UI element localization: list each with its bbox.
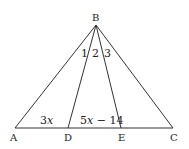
point-label-c: C xyxy=(170,132,178,143)
point-label-a: A xyxy=(9,132,18,143)
point-label-d: D xyxy=(64,132,72,143)
segment-bc xyxy=(96,25,173,128)
segment-bd xyxy=(68,25,96,128)
triangle-diagram: B A D E C 1 2 3 3x 5x − 14 xyxy=(0,0,189,149)
angle-label-2: 2 xyxy=(92,47,99,60)
segment-label-de: 5x − 14 xyxy=(80,114,123,127)
segment-label-ad: 3x xyxy=(40,114,54,127)
segment-ba xyxy=(15,25,96,128)
angle-label-3: 3 xyxy=(104,47,111,60)
segment-be xyxy=(96,25,121,128)
point-label-b: B xyxy=(92,12,99,23)
point-label-e: E xyxy=(118,132,125,143)
angle-label-1: 1 xyxy=(81,47,88,60)
